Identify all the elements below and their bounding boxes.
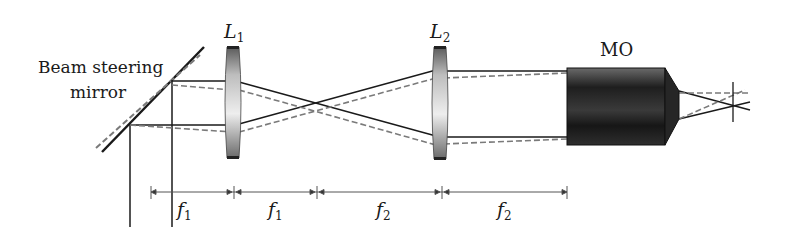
objective-label: MO bbox=[600, 39, 633, 60]
dim-sub: 1 bbox=[184, 209, 192, 223]
dim-main: f bbox=[268, 198, 275, 220]
lens-l1-label: L1 bbox=[224, 20, 244, 45]
dimension-label-f2-a: f2 bbox=[376, 198, 391, 223]
lens-l2-label-sub: 2 bbox=[443, 31, 451, 45]
lens-l1 bbox=[225, 46, 241, 159]
mirror-label-line1: Beam steering bbox=[38, 57, 163, 77]
lens-l2-label-main: L bbox=[430, 20, 443, 42]
dim-sub: 1 bbox=[275, 209, 283, 223]
mirror-label-line2: mirror bbox=[70, 82, 126, 102]
dim-sub: 2 bbox=[504, 209, 512, 223]
lens-l1-label-main: L bbox=[224, 20, 237, 42]
dim-sub: 2 bbox=[383, 209, 391, 223]
lens-l2-label: L2 bbox=[430, 20, 450, 45]
dimension-label-f2-b: f2 bbox=[497, 198, 512, 223]
dimension-label-f1-b: f1 bbox=[268, 198, 283, 223]
lens-l2 bbox=[432, 46, 448, 160]
lens-l1-label-sub: 1 bbox=[237, 31, 245, 45]
microscope-objective bbox=[567, 68, 679, 145]
dim-main: f bbox=[177, 198, 184, 220]
dimension-label-f1-a: f1 bbox=[177, 198, 192, 223]
optical-diagram bbox=[0, 0, 787, 243]
dim-main: f bbox=[497, 198, 504, 220]
dim-main: f bbox=[376, 198, 383, 220]
